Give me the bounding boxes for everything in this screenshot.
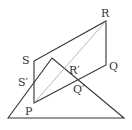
- label-r: R: [101, 7, 110, 20]
- label-q-prime: Q′: [73, 83, 85, 96]
- label-s: S: [22, 54, 30, 67]
- label-s-prime: S′: [18, 76, 29, 89]
- diagonal-pr: [34, 21, 106, 103]
- label-p: P: [25, 105, 33, 118]
- geometry-diagram: R Q S P S′ R′ Q′: [0, 0, 132, 130]
- label-q: Q: [109, 60, 118, 73]
- label-r-prime: R′: [69, 64, 80, 77]
